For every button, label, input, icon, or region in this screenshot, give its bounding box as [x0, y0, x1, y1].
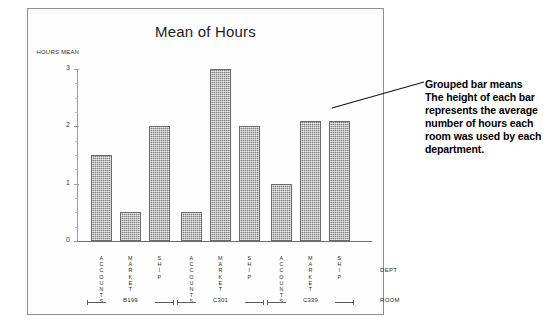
y-tick-1: 1	[74, 184, 79, 185]
y-tick-minor	[75, 98, 78, 99]
group-axis-title: ROOM	[380, 297, 400, 303]
bar	[239, 126, 260, 241]
callout-body: The height of each bar represents the av…	[425, 91, 553, 156]
chart-title: Mean of Hours	[28, 23, 383, 40]
room-label: C339	[286, 297, 335, 303]
y-tick-3: 3	[74, 69, 79, 70]
dept-label: SHIP	[333, 255, 347, 280]
room-group: C301	[177, 297, 264, 307]
room-group: B199	[87, 297, 174, 307]
y-tick-label-3: 3	[66, 64, 70, 71]
room-label: C301	[196, 297, 245, 303]
y-tick-label-1: 1	[66, 179, 70, 186]
bar	[300, 121, 321, 241]
y-tick-label-0: 0	[66, 236, 70, 243]
bar	[210, 69, 231, 241]
x-axis-line	[77, 241, 372, 242]
dept-label: MARKET	[124, 255, 138, 292]
bar	[271, 184, 292, 241]
y-tick-label-2: 2	[66, 121, 70, 128]
callout-annotation: Grouped bar means The height of each bar…	[425, 78, 553, 156]
y-tick-minor	[75, 169, 78, 170]
plot-area: HOURS MEAN 3 2 1 0	[77, 61, 377, 249]
bar	[181, 212, 202, 241]
dept-label: MARKET	[304, 255, 318, 292]
dept-label: SHIP	[153, 255, 167, 280]
callout-heading: Grouped bar means	[425, 78, 553, 91]
y-tick-minor	[75, 212, 78, 213]
bar	[120, 212, 141, 241]
y-tick-minor	[75, 83, 78, 84]
dept-label: MARKET	[214, 255, 228, 292]
y-tick-minor	[75, 141, 78, 142]
y-axis-title: HOURS MEAN	[36, 49, 79, 55]
y-tick-minor	[75, 155, 78, 156]
dept-label: SHIP	[243, 255, 257, 280]
room-label: B199	[106, 297, 155, 303]
y-tick-minor	[75, 112, 78, 113]
bar	[329, 121, 350, 241]
room-group: C339	[267, 297, 354, 307]
bar	[149, 126, 170, 241]
y-tick-2: 2	[74, 126, 79, 127]
y-tick-0: 0	[74, 241, 79, 242]
x-axis-title: DEPT	[380, 267, 397, 273]
y-tick-minor	[75, 198, 78, 199]
bar	[91, 155, 112, 241]
y-tick-minor	[75, 227, 78, 228]
chart-frame: Mean of Hours HOURS MEAN 3 2 1 0 ACCOUNT…	[27, 8, 384, 315]
